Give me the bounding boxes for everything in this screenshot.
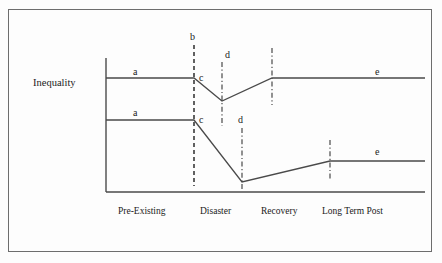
marker-e-lower: e xyxy=(375,147,379,157)
marker-d-upper: d xyxy=(225,50,230,60)
marker-c-lower: c xyxy=(199,115,203,125)
marker-d-lower: d xyxy=(238,115,243,125)
y-axis-label: Inequality xyxy=(33,78,76,89)
marker-a-lower: a xyxy=(133,108,137,118)
marker-a-upper: a xyxy=(133,67,137,77)
marker-b: b xyxy=(190,32,195,42)
category-label-pre-existing: Pre-Existing xyxy=(118,207,166,217)
category-label-long-term-post: Long Term Post xyxy=(322,207,383,217)
category-label-recovery: Recovery xyxy=(261,207,297,217)
diagram-canvas xyxy=(0,0,442,263)
upper-trajectory-line xyxy=(106,78,425,101)
figure-container: Inequality a a b c c d d e e Pre-Existin… xyxy=(0,0,442,263)
marker-c-upper: c xyxy=(199,73,203,83)
category-label-disaster: Disaster xyxy=(200,207,231,217)
marker-e-upper: e xyxy=(375,67,379,77)
